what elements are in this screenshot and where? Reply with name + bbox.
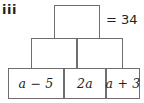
pyramid-cell-top xyxy=(54,5,100,39)
pyramid-cell-middle-left xyxy=(31,38,77,69)
pyramid-cell-middle-right xyxy=(77,38,123,69)
pyramid-cell-bottom-middle: 2a xyxy=(64,68,106,99)
number-pyramid-diagram: iii = 34 a − 5 2a a + 3 xyxy=(0,0,144,103)
pyramid-cell-bottom-right-label: a + 3 xyxy=(106,76,141,91)
total-annotation: = 34 xyxy=(106,12,138,28)
pyramid-cell-bottom-left-label: a − 5 xyxy=(19,76,54,91)
pyramid-cell-bottom-middle-label: 2a xyxy=(77,76,93,91)
pyramid-cell-bottom-left: a − 5 xyxy=(8,68,64,99)
pyramid-cell-bottom-right: a + 3 xyxy=(106,68,140,99)
part-label: iii xyxy=(2,3,17,17)
